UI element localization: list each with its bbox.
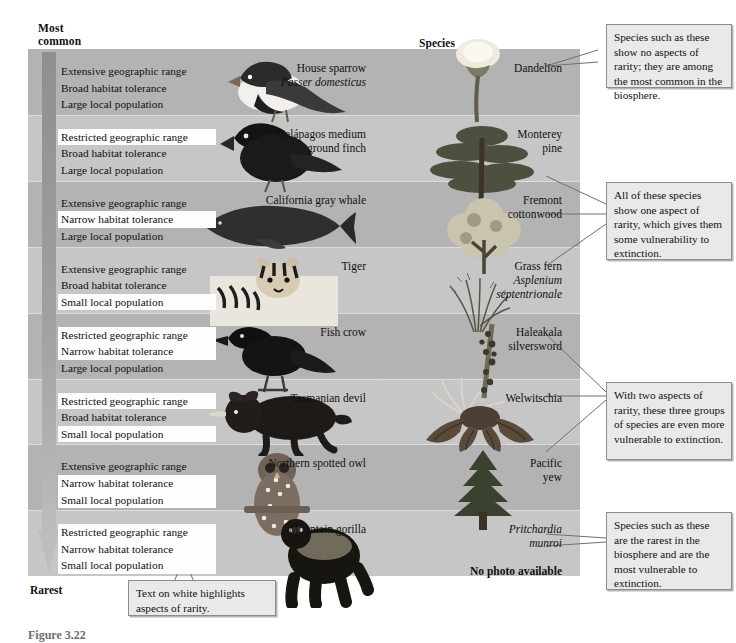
rarity-attribute-highlighted: Small local population: [58, 294, 216, 311]
species-label-animal: Northern spotted owl: [206, 456, 366, 470]
species-scientific-name: Passer domesticus: [206, 75, 366, 89]
no-photo-note: No photo available: [442, 564, 562, 578]
rarity-attribute-highlighted: Restricted geographic range: [58, 524, 216, 541]
axis-label-most-common: Most common: [38, 22, 128, 48]
rarity-attribute: Large local population: [58, 162, 216, 179]
species-name-line: Monterey: [442, 127, 562, 141]
rarity-attribute: Extensive geographic range: [58, 63, 216, 80]
rarity-attribute-highlighted: Narrow habitat tolerance: [58, 343, 216, 360]
species-scientific-name-line: Pritchardia: [442, 522, 562, 536]
species-name-line: yew: [442, 470, 562, 484]
species-label-plant: Welwitschia: [442, 391, 562, 405]
species-name: California gray whale: [206, 193, 366, 207]
species-label-plant: Haleakalasilversword: [442, 325, 562, 353]
species-name-line: ground finch: [206, 141, 366, 155]
species-scientific-name-line: Asplenium: [442, 273, 562, 287]
row-separator: [28, 379, 580, 380]
species-label-animal: Galápagos mediumground finch: [206, 127, 366, 155]
species-name: House sparrow: [206, 61, 366, 75]
species-name: Tiger: [206, 259, 366, 273]
species-name: Fish crow: [206, 325, 366, 339]
species-name-line: Galápagos medium: [206, 127, 366, 141]
rarity-attributes: Restricted geographic rangeBroad habitat…: [58, 393, 218, 443]
callout-legend: Text on white highlights aspects of rari…: [128, 580, 276, 616]
species-scientific-name-line: septentrionale: [442, 287, 562, 301]
species-label-plant: Grass fernAspleniumseptentrionale: [442, 259, 562, 301]
callout-one-aspect: All of these species show one aspect of …: [606, 182, 732, 260]
rarity-attributes: Extensive geographic rangeNarrow habitat…: [58, 195, 218, 245]
rarity-attributes: Extensive geographic rangeNarrow habitat…: [58, 458, 218, 508]
species-label-animal: Tasmanian devil: [206, 391, 366, 405]
row-separator: [28, 313, 580, 314]
species-name: Mountain gorilla: [206, 522, 366, 536]
species-label-plant: Montereypine: [442, 127, 562, 155]
rarity-attribute: Broad habitat tolerance: [58, 145, 216, 162]
species-label-animal: Mountain gorilla: [206, 522, 366, 536]
rarity-attribute: Extensive geographic range: [58, 458, 216, 475]
species-name-line: Welwitschia: [442, 391, 562, 405]
callout-two-aspects: With two aspects of rarity, these three …: [606, 382, 732, 460]
rarity-attribute-highlighted: Narrow habitat tolerance: [58, 541, 216, 558]
rarity-attribute-highlighted: Restricted geographic range: [58, 393, 216, 410]
rarity-gradient-arrow: [38, 52, 60, 572]
rarity-attributes: Restricted geographic rangeBroad habitat…: [58, 129, 218, 179]
rarity-attribute-highlighted: Small local population: [58, 557, 216, 574]
species-label-plant: Pacificyew: [442, 456, 562, 484]
rarity-attribute: Large local population: [58, 228, 216, 245]
column-header-species: Species: [392, 37, 482, 49]
rarity-attribute-highlighted: Small local population: [58, 492, 216, 509]
row-separator: [28, 444, 580, 445]
rarity-attributes: Restricted geographic rangeNarrow habita…: [58, 524, 218, 574]
species-label-plant: Dandelion: [442, 61, 562, 75]
rarity-attribute: Extensive geographic range: [58, 195, 216, 212]
species-label-animal: House sparrowPasser domesticus: [206, 61, 366, 89]
species-scientific-name-line: munroi: [442, 536, 562, 550]
species-name-line: Fremont: [442, 193, 562, 207]
rarity-attribute-highlighted: Narrow habitat tolerance: [58, 211, 216, 228]
species-name: Northern spotted owl: [206, 456, 366, 470]
rarity-attribute: Extensive geographic range: [58, 261, 216, 278]
rarity-attributes: Restricted geographic rangeNarrow habita…: [58, 327, 218, 377]
species-name-line: cottonwood: [442, 207, 562, 221]
species-name-line: Haleakala: [442, 325, 562, 339]
axis-label-most-common-line2: common: [38, 35, 128, 48]
axis-label-most-common-line1: Most: [38, 22, 128, 35]
row-separator: [28, 181, 580, 182]
species-name-line: Grass fern: [442, 259, 562, 273]
species-label-animal: California gray whale: [206, 193, 366, 207]
rarity-attributes: Extensive geographic rangeBroad habitat …: [58, 63, 218, 113]
species-name-line: Pacific: [442, 456, 562, 470]
row-separator: [28, 247, 580, 248]
species-name-line: pine: [442, 141, 562, 155]
species-label-animal: Fish crow: [206, 325, 366, 339]
row-separator: [28, 510, 580, 511]
species-label-animal: Tiger: [206, 259, 366, 273]
rarity-attribute-highlighted: Restricted geographic range: [58, 129, 216, 146]
rarity-attribute-highlighted: Small local population: [58, 426, 216, 443]
species-name: Dandelion: [442, 61, 562, 75]
axis-label-rarest: Rarest: [30, 584, 62, 596]
callout-common: Species such as these show no aspects of…: [606, 24, 732, 88]
rarity-attribute-highlighted: Narrow habitat tolerance: [58, 475, 216, 492]
rarity-attribute-highlighted: Restricted geographic range: [58, 327, 216, 344]
species-name-line: silversword: [442, 339, 562, 353]
species-label-plant: PritchardiamunroiNo photo available: [442, 522, 562, 578]
rarity-attribute: Broad habitat tolerance: [58, 277, 216, 294]
row-separator: [28, 115, 580, 116]
species-label-plant: Fremontcottonwood: [442, 193, 562, 221]
rarity-attributes: Extensive geographic rangeBroad habitat …: [58, 261, 218, 311]
rarity-attribute: Broad habitat tolerance: [58, 80, 216, 97]
species-name: Tasmanian devil: [206, 391, 366, 405]
figure-caption: Figure 3.22: [28, 628, 86, 643]
rarity-attribute: Large local population: [58, 96, 216, 113]
rarity-attribute: Broad habitat tolerance: [58, 409, 216, 426]
rarity-attribute: Large local population: [58, 360, 216, 377]
callout-rarest: Species such as these are the rarest in …: [606, 512, 732, 590]
